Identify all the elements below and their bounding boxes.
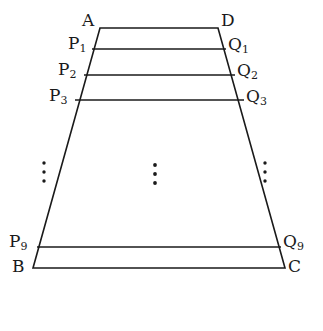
ellipsis-left-icon: [42, 161, 45, 182]
point-label-p2: P2: [58, 61, 76, 78]
ellipsis-center-icon: [153, 163, 157, 185]
vertex-label-d: D: [221, 12, 235, 29]
figure-canvas: [0, 0, 323, 331]
vertex-label-b: B: [12, 258, 25, 275]
point-label-p9: P9: [9, 233, 27, 250]
vertex-label-c: C: [288, 258, 301, 275]
vertex-label-a: A: [82, 12, 94, 29]
point-label-p1: P1: [68, 35, 86, 52]
point-label-q1: Q1: [228, 36, 249, 53]
point-label-q9: Q9: [283, 233, 304, 250]
point-label-p3: P3: [49, 87, 67, 104]
trapezoid-figure: A D P1 Q1 P2 Q2 P3 Q3 P9 Q9 B C: [0, 0, 323, 331]
point-label-q3: Q3: [246, 88, 267, 105]
ellipsis-right-icon: [263, 161, 266, 182]
point-label-q2: Q2: [237, 62, 258, 79]
